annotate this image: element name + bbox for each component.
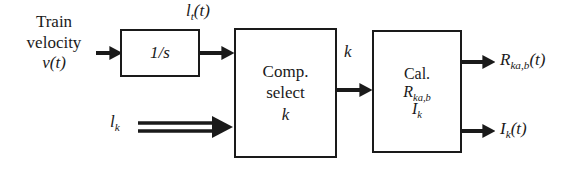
output-r-base: R xyxy=(500,50,510,69)
input-lk-subscript: k xyxy=(115,121,120,133)
output-label-i: Ik(t) xyxy=(500,119,527,139)
block-comp-select-line1: Comp. xyxy=(263,62,309,81)
output-label-r: Rka,b(t) xyxy=(500,50,545,70)
block-calculate-line1: Cal. xyxy=(404,65,430,83)
block-comp-select: Comp. select k xyxy=(234,28,337,158)
block-integrator-label: 1/s xyxy=(150,43,170,62)
input-label-vt: v(t) xyxy=(42,53,66,72)
input-label-line3: v(t) xyxy=(8,53,100,74)
block-diagram: Train velocity v(t) 1/s lt(t) lk Comp. s… xyxy=(0,0,576,170)
block-integrator: 1/s xyxy=(120,29,200,77)
signal-lt-arg: (t) xyxy=(194,1,210,20)
block-comp-select-line2: select xyxy=(266,83,305,102)
block-comp-select-line3: k xyxy=(282,105,290,124)
input-label-lk: lk xyxy=(110,112,120,132)
output-i-arg: (t) xyxy=(511,119,527,138)
block-calculate-line2: Rka,b xyxy=(403,83,431,101)
input-label-line1: Train xyxy=(8,12,100,33)
signal-label-lt: lt(t) xyxy=(186,1,210,21)
output-r-arg: (t) xyxy=(529,50,545,69)
input-label-train-velocity: Train velocity v(t) xyxy=(8,12,100,74)
input-label-line2: velocity xyxy=(8,33,100,54)
output-r-subscript: ka,b xyxy=(510,59,529,71)
arrow-lk-to-comp-select xyxy=(138,116,233,138)
signal-label-k: k xyxy=(344,42,352,62)
block-calculate-line3: Ik xyxy=(412,100,422,118)
block-calculate: Cal. Rka,b Ik xyxy=(372,30,462,153)
